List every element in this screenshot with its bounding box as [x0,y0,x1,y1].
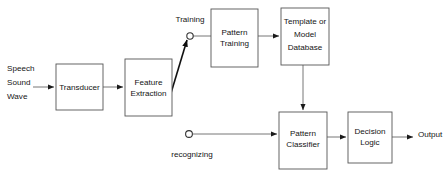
node-decision-logic-label-line2: Logic [360,138,379,147]
input-label-line2: Sound [7,78,30,87]
node-transducer: Transducer [56,64,103,110]
node-feature-extraction-box [125,59,172,116]
node-pattern-classifier: Pattern Classifier [279,112,327,169]
speech-recognition-block-diagram: Transducer Feature Extraction Pattern Tr… [0,0,448,175]
node-feature-extraction: Feature Extraction [125,59,172,116]
node-feature-extraction-label-line2: Extraction [131,89,167,98]
node-decision-logic: Decision Logic [348,112,392,163]
node-pattern-classifier-label-line2: Classifier [286,140,320,149]
node-template-model-database-label-line3: Database [288,43,323,52]
node-pattern-training: Pattern Training [211,9,258,67]
training-terminal-icon[interactable] [187,33,193,39]
recognizing-terminal-icon[interactable] [186,131,193,138]
input-label-line3: Wave [7,92,28,101]
node-pattern-classifier-label-line1: Pattern [290,129,316,138]
node-pattern-training-label-line2: Training [220,39,249,48]
node-pattern-training-label-line1: Pattern [221,28,247,37]
node-template-model-database: Template or Model Database [281,8,329,65]
node-pattern-training-box [211,9,258,67]
node-template-model-database-label-line2: Model [294,30,316,39]
training-label: Training [176,15,205,24]
node-template-model-database-label-line1: Template or [284,17,327,26]
input-label-line1: Speech [7,64,34,73]
output-label: Output [418,130,443,139]
node-transducer-label: Transducer [59,83,100,92]
diagram-canvas: Transducer Feature Extraction Pattern Tr… [0,0,448,175]
recognizing-label: recognizing [171,150,212,159]
input-label: Speech Sound Wave [7,64,34,101]
node-feature-extraction-label-line1: Feature [135,78,163,87]
node-decision-logic-label-line1: Decision [354,127,385,136]
